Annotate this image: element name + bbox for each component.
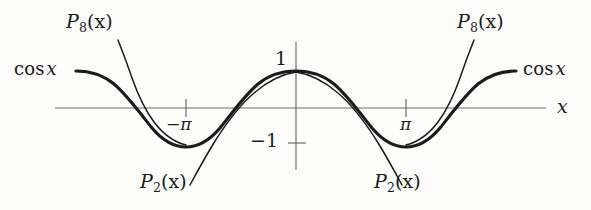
label-cos-left-var: x xyxy=(47,58,57,79)
label-p8-left-base: P xyxy=(66,10,79,32)
label-cos-left-prefix: cos xyxy=(14,58,45,79)
label-p8-left-sub: 8 xyxy=(79,20,87,35)
label-p2-left-arg: (x) xyxy=(161,170,187,192)
label-cos-right: cos x xyxy=(523,60,566,78)
label-cos-left: cos x xyxy=(14,60,57,78)
label-cos-right-var: x xyxy=(556,58,566,79)
taylor-approximation-figure: cos x cos x P8(x) P8(x) P2(x) P2(x) x 1 … xyxy=(0,0,591,210)
label-p8-right-sub: 8 xyxy=(470,20,478,35)
curve-p2-right xyxy=(296,72,402,185)
label-tick-pi: π xyxy=(400,116,411,133)
label-tick-minus-pi: −π xyxy=(166,116,191,133)
label-p2-left: P2(x) xyxy=(140,172,187,194)
label-p2-left-sub: 2 xyxy=(153,180,161,195)
label-p8-left-arg: (x) xyxy=(87,10,113,32)
label-p8-right-arg: (x) xyxy=(478,10,504,32)
label-p2-right-arg: (x) xyxy=(395,170,421,192)
label-p8-right: P8(x) xyxy=(457,12,504,34)
label-p8-left: P8(x) xyxy=(66,12,113,34)
label-p2-right-sub: 2 xyxy=(387,180,395,195)
label-cos-right-prefix: cos xyxy=(523,58,554,79)
curve-p2-left xyxy=(190,72,296,185)
label-p2-right: P2(x) xyxy=(374,172,421,194)
label-p2-left-base: P xyxy=(140,170,153,192)
label-y-minus-one: −1 xyxy=(250,131,278,150)
label-y-one: 1 xyxy=(275,49,287,68)
label-p8-right-base: P xyxy=(457,10,470,32)
label-x-axis: x xyxy=(557,97,568,116)
label-p2-right-base: P xyxy=(374,170,387,192)
